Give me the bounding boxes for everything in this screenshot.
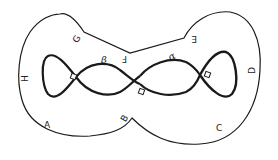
diagram-canvas: G F E D C B A H β α bbox=[0, 0, 278, 160]
label-e: E bbox=[191, 34, 197, 44]
label-d: D bbox=[247, 67, 257, 74]
crossing-marker-left bbox=[70, 73, 76, 79]
label-h: H bbox=[20, 75, 30, 82]
crossing-marker-right bbox=[204, 71, 210, 77]
label-c: C bbox=[216, 123, 222, 133]
lower-arc-right bbox=[140, 75, 200, 95]
label-g: G bbox=[71, 33, 83, 44]
label-f: F bbox=[122, 54, 127, 64]
upper-arc-left bbox=[76, 64, 140, 84]
upper-arc-right bbox=[140, 60, 200, 76]
label-beta: β bbox=[100, 54, 107, 65]
outer-boundary-curve bbox=[19, 12, 261, 144]
crossing-marker-middle bbox=[138, 88, 144, 94]
label-a: A bbox=[44, 120, 51, 130]
